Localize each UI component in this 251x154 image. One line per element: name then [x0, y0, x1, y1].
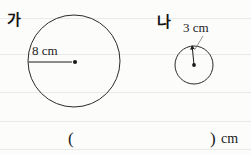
answer-paren-close: ): [210, 130, 216, 147]
answer-unit-label: cm: [221, 132, 238, 146]
center-dot-na: [192, 63, 196, 67]
radius-label-ga: 8 cm: [32, 44, 58, 57]
worksheet-canvas: 가 나 8 cm 3 cm ( ) cm: [0, 0, 251, 154]
radius-label-na: 3 cm: [183, 21, 209, 34]
shape-label-na: 나: [157, 15, 171, 30]
center-dot-ga: [73, 60, 77, 64]
shape-label-ga: 가: [7, 13, 21, 28]
answer-paren-open: (: [68, 130, 74, 147]
radius-line-na: [192, 47, 194, 66]
